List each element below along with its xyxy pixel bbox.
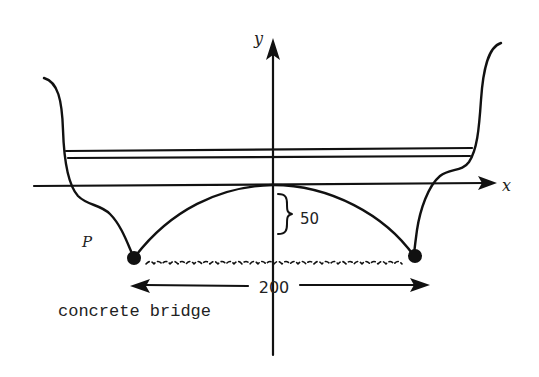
x-axis-label: x: [502, 176, 511, 195]
height-label: 50: [300, 210, 319, 228]
right-bank-curve: [414, 43, 501, 256]
point-p-label: P: [81, 233, 93, 251]
y-axis-label: y: [253, 29, 264, 48]
caption-label: concrete bridge: [58, 302, 211, 321]
span-label: 200: [259, 278, 290, 297]
bridge-arch-diagram: x y P 50 200 concrete bridge: [0, 0, 539, 377]
left-endpoint-dot: [127, 251, 141, 265]
right-endpoint-dot: [408, 249, 422, 263]
road-deck-upper-line: [66, 148, 472, 151]
height-brace-icon: [278, 194, 292, 234]
left-bank-curve: [44, 78, 134, 258]
span-arrow-left-line: [145, 285, 248, 286]
road-deck-lower-line: [68, 156, 470, 158]
